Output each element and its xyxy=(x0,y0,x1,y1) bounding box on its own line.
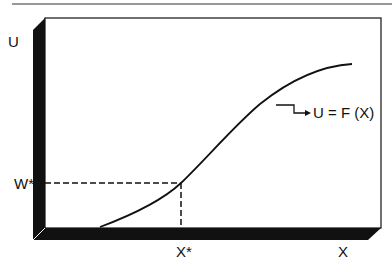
x-axis-bar xyxy=(33,228,381,240)
plot-frame xyxy=(45,18,381,228)
w-star-label: W* xyxy=(14,175,34,192)
x-star-label: X* xyxy=(176,243,192,260)
utility-diagram: U W* X* X U = F (X) xyxy=(0,0,392,272)
curve-label: U = F (X) xyxy=(313,104,374,121)
x-axis-label: X xyxy=(338,243,348,260)
y-axis-bar xyxy=(33,18,45,240)
y-axis-label: U xyxy=(8,33,19,50)
